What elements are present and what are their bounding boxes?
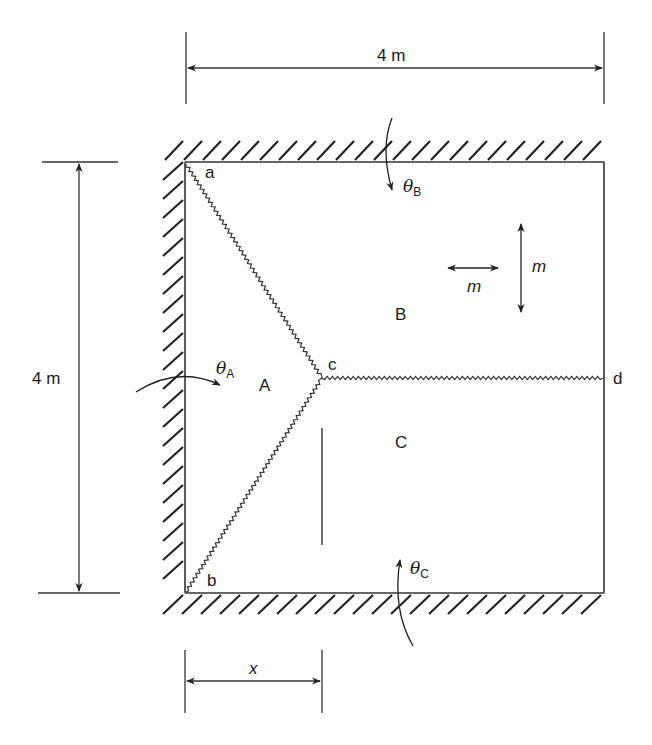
theta-a-label: θA	[216, 360, 234, 380]
theta-b-label: θB	[403, 178, 421, 198]
point-b-label: b	[207, 572, 216, 589]
theta-a-rotation-arrow	[136, 376, 220, 392]
top-dimension	[186, 32, 604, 104]
left-support-hatching	[163, 162, 183, 579]
point-d-label: d	[613, 370, 622, 387]
slab-diagram	[0, 0, 652, 745]
bottom-support-hatching	[163, 595, 601, 614]
moment-vertical-label: m	[532, 258, 546, 275]
theta-b-rotation-arrow	[386, 118, 392, 190]
region-c-label: C	[395, 434, 407, 451]
region-b-label: B	[395, 306, 406, 323]
yield-line-b-c	[186, 378, 322, 592]
left-dimension-label: 4 m	[32, 370, 60, 387]
top-support-hatching	[165, 141, 601, 160]
yield-line-c-d	[322, 376, 603, 379]
x-dimension-label: x	[249, 660, 258, 677]
region-a-label: A	[259, 377, 270, 394]
yield-lines	[186, 164, 603, 592]
point-a-label: a	[205, 164, 214, 181]
yield-line-a-c	[186, 164, 322, 378]
top-dimension-label: 4 m	[377, 47, 405, 64]
point-c-label: c	[328, 356, 337, 373]
theta-c-label: θC	[410, 560, 429, 580]
moment-horizontal-label: m	[467, 278, 481, 295]
